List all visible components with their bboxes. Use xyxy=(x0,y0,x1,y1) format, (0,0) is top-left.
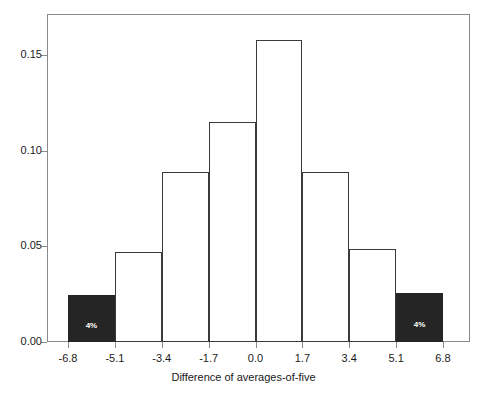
histogram-bar: 4% xyxy=(68,295,115,342)
plot-area: 4%4% xyxy=(47,14,470,342)
histogram-bar xyxy=(115,252,162,342)
bar-annotation: 4% xyxy=(397,320,442,329)
x-axis-tick-mark xyxy=(68,342,69,348)
x-axis-title: Difference of averages-of-five xyxy=(0,371,487,384)
histogram-bar xyxy=(162,172,209,342)
x-axis-tick-mark xyxy=(162,342,163,348)
x-axis-tick-label: -5.1 xyxy=(91,352,139,364)
histogram-bar xyxy=(256,40,303,342)
x-axis-tick-label: 3.4 xyxy=(325,352,373,364)
histogram-bar xyxy=(349,249,396,342)
x-axis-tick-mark xyxy=(115,342,116,348)
y-axis-tick-label: 0.05 xyxy=(21,240,42,251)
y-axis-tick-label: 0.10 xyxy=(21,145,42,156)
x-axis-tick-mark xyxy=(209,342,210,348)
x-axis-tick-mark xyxy=(302,342,303,348)
x-axis-tick-mark xyxy=(443,342,444,348)
histogram-bar xyxy=(302,172,349,342)
x-axis-tick-label: 0.0 xyxy=(232,352,280,364)
x-axis-tick-mark xyxy=(396,342,397,348)
x-axis-tick-label: 6.8 xyxy=(419,352,467,364)
histogram-bar xyxy=(209,122,256,342)
histogram-figure: 4%4% 0.000.050.100.15 -6.8-5.1-3.4-1.70.… xyxy=(0,0,487,395)
x-axis-tick-mark xyxy=(256,342,257,348)
histogram-bar: 4% xyxy=(396,293,443,342)
x-axis-tick-label: 5.1 xyxy=(372,352,420,364)
x-axis-tick-label: -6.8 xyxy=(44,352,92,364)
y-axis-tick-label: 0.00 xyxy=(21,336,42,347)
bar-annotation: 4% xyxy=(69,321,114,330)
x-axis-tick-label: -1.7 xyxy=(185,352,233,364)
y-axis-tick-label: 0.15 xyxy=(21,49,42,60)
x-axis-tick-label: 1.7 xyxy=(278,352,326,364)
x-axis-tick-label: -3.4 xyxy=(138,352,186,364)
x-axis-tick-mark xyxy=(349,342,350,348)
